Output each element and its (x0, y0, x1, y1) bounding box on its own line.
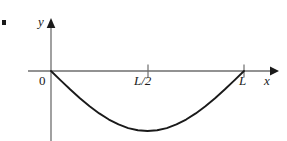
tick-label-l: L (239, 74, 246, 87)
y-axis-arrowhead (47, 18, 56, 28)
figure-container: y x 0 L/2 L (0, 0, 287, 141)
tick-label-half-l: L/2 (134, 74, 151, 87)
x-axis-arrowhead (270, 67, 279, 76)
y-axis-label: y (38, 15, 44, 28)
x-axis-label: x (264, 74, 270, 87)
origin-label: 0 (39, 74, 46, 87)
